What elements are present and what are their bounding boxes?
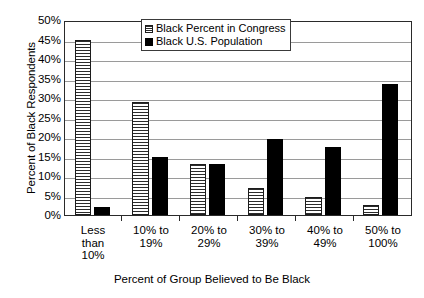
x-axis-title: Percent of Group Believed to Be Black	[0, 273, 424, 285]
x-tick-label-line: 10% to	[123, 224, 179, 237]
bar-group	[353, 22, 411, 215]
x-tick-mark	[180, 216, 238, 221]
chart-legend: Black Percent in CongressBlack U.S. Popu…	[141, 19, 291, 51]
y-tick-label: 40%	[14, 54, 61, 65]
x-tick-mark	[64, 216, 122, 221]
x-tick-label-line: 29%	[181, 237, 237, 250]
x-tick-mark	[354, 216, 412, 221]
x-tick-label: 20% to29%	[180, 224, 238, 262]
y-tick-label: 30%	[14, 93, 61, 104]
x-tick-label-line: 40% to	[297, 224, 353, 237]
x-tick-label-line: than	[65, 237, 121, 250]
x-tick-label: 50% to100%	[354, 224, 412, 262]
x-tick-label-line: 39%	[239, 237, 295, 250]
bar-congress[interactable]	[132, 102, 148, 215]
bar-group	[65, 22, 123, 215]
x-tick-label-line: 10%	[65, 249, 121, 262]
bar-congress[interactable]	[363, 205, 379, 215]
y-tick-label: 20%	[14, 132, 61, 143]
legend-label: Black Percent in Congress	[156, 23, 286, 34]
legend-swatch-solid-icon	[145, 38, 153, 46]
x-tick-label: 10% to19%	[122, 224, 180, 262]
x-tick-mark	[296, 216, 354, 221]
legend-item[interactable]: Black Percent in Congress	[145, 22, 286, 35]
bar-congress[interactable]	[248, 188, 264, 215]
y-tick-label: 25%	[14, 113, 61, 124]
x-tick-label-line: 50% to	[355, 224, 411, 237]
x-tick-label-line: 100%	[355, 237, 411, 250]
bar-chart: Percent of Black Respondents 50%45%40%35…	[0, 0, 424, 298]
legend-label: Black U.S. Population	[156, 36, 262, 47]
bar-population[interactable]	[152, 157, 168, 216]
y-tick-label: 50%	[14, 15, 61, 26]
y-tick-label: 35%	[14, 74, 61, 85]
bar-congress[interactable]	[190, 164, 206, 215]
y-axis-tick-labels: 50%45%40%35%30%25%20%15%10%5%0%	[14, 14, 61, 223]
x-tick-label-line: 20% to	[181, 224, 237, 237]
legend-swatch-hatched-icon	[145, 25, 153, 33]
x-tick-label: 40% to49%	[296, 224, 354, 262]
x-tick-label-line: 19%	[123, 237, 179, 250]
x-axis-tick-labels: Lessthan10%10% to19%20% to29%30% to39%40…	[64, 224, 412, 262]
bar-population[interactable]	[94, 207, 110, 215]
y-tick-label: 10%	[14, 171, 61, 182]
x-tick-label-line: Less	[65, 224, 121, 237]
bar-congress[interactable]	[305, 197, 321, 215]
x-tick-label-line: 49%	[297, 237, 353, 250]
y-tick-label: 5%	[14, 191, 61, 202]
x-tick-mark	[122, 216, 180, 221]
y-tick-label: 0%	[14, 210, 61, 221]
bar-population[interactable]	[382, 84, 398, 215]
x-axis-tick-marks	[64, 216, 412, 221]
bar-population[interactable]	[267, 139, 283, 215]
bar-group	[296, 22, 354, 215]
bar-population[interactable]	[209, 164, 225, 215]
x-tick-label: Lessthan10%	[64, 224, 122, 262]
bar-congress[interactable]	[75, 40, 91, 216]
x-tick-label-line: 30% to	[239, 224, 295, 237]
legend-item[interactable]: Black U.S. Population	[145, 35, 286, 48]
y-tick-label: 45%	[14, 35, 61, 46]
y-tick-label: 15%	[14, 152, 61, 163]
x-tick-mark	[238, 216, 296, 221]
x-tick-label: 30% to39%	[238, 224, 296, 262]
bar-population[interactable]	[325, 147, 341, 215]
